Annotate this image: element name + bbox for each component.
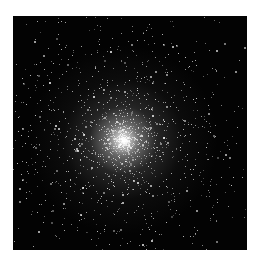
star-field: [13, 16, 247, 250]
star-cluster-image: [13, 16, 247, 250]
